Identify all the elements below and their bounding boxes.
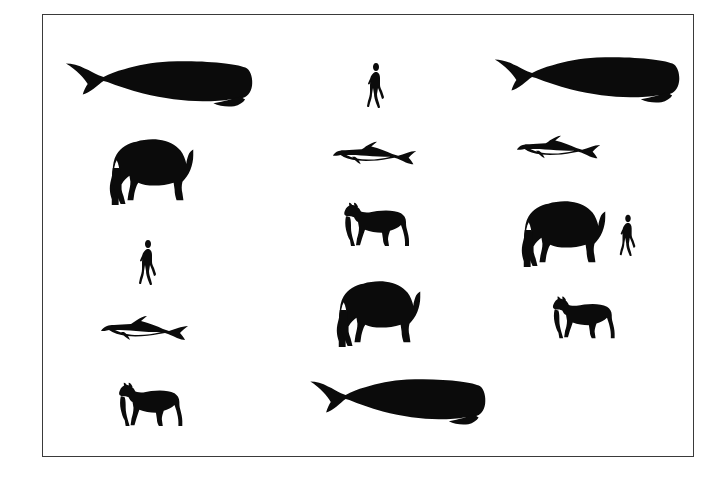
silhouette-dolphin-lower-left (99, 311, 195, 345)
silhouette-human-right (617, 213, 639, 257)
silhouette-dolphin-upper-right (515, 131, 607, 163)
silhouette-sperm-whale-top-left (56, 49, 254, 111)
silhouette-elephant-center (326, 271, 434, 351)
silhouette-horse-center (338, 197, 422, 249)
silhouette-horse-bottom-left (113, 377, 195, 429)
silhouette-elephant-right (511, 191, 619, 271)
silhouette-human-top-center (364, 61, 388, 109)
silhouette-sperm-whale-bottom (301, 367, 487, 429)
silhouette-dolphin-upper-center (331, 137, 423, 169)
silhouette-horse-right (547, 291, 627, 341)
silhouette-sperm-whale-top-right (485, 45, 681, 107)
silhouette-elephant-upper-left (99, 129, 207, 209)
figure-canvas (0, 0, 726, 485)
figure-frame-border (42, 14, 694, 457)
silhouette-human-left (136, 238, 160, 286)
